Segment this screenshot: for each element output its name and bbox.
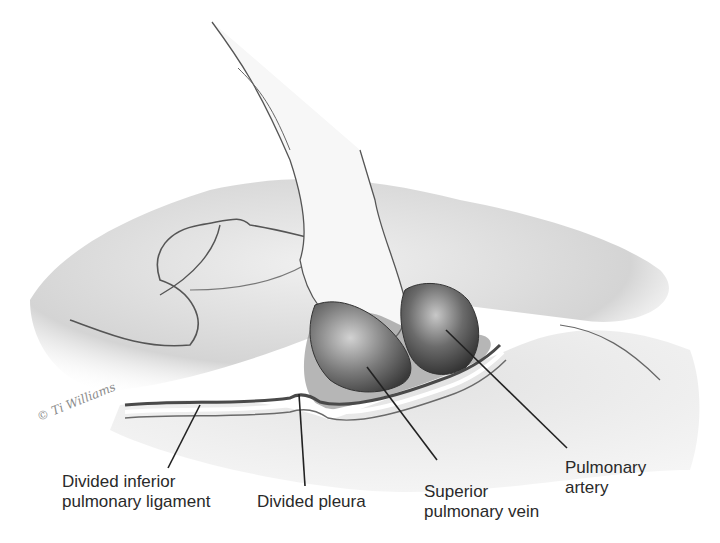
label-line: pulmonary vein (424, 502, 539, 522)
label-line: Divided inferior (62, 472, 210, 492)
label-pulmonary-artery: Pulmonary artery (565, 458, 646, 498)
surgical-illustration: © Ti Williams Divided inferior pulmonary… (0, 0, 720, 543)
label-line: Superior (424, 482, 539, 502)
label-divided-pleura: Divided pleura (257, 492, 366, 512)
label-line: artery (565, 478, 646, 498)
label-line: Pulmonary (565, 458, 646, 478)
label-line: Divided pleura (257, 492, 366, 512)
label-divided-inferior-pulmonary-ligament: Divided inferior pulmonary ligament (62, 472, 210, 512)
label-line: pulmonary ligament (62, 492, 210, 512)
label-superior-pulmonary-vein: Superior pulmonary vein (424, 482, 539, 522)
